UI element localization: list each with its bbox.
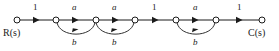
- arrow-head-feedback-3: [192, 28, 199, 32]
- gain-label-forward-1: 1: [33, 3, 38, 12]
- input-node-label: R(s): [3, 28, 20, 38]
- arrow-head-forward-2: [72, 17, 79, 23]
- feedback-arc-3: [177, 23, 215, 35]
- arrow-head-feedback-2: [111, 28, 118, 32]
- node-output[interactable]: [259, 17, 265, 23]
- node-2[interactable]: [53, 17, 59, 23]
- arrow-head-forward-1: [33, 17, 40, 23]
- arrow-head-feedback-1: [72, 28, 79, 32]
- arrow-head-forward-5: [192, 17, 199, 23]
- gain-label-forward-2: a: [72, 3, 77, 12]
- node-6[interactable]: [213, 17, 219, 23]
- feedback-arc-2: [96, 23, 134, 35]
- signal-flow-graph: 1 a a 1 a 1 b b b R(s) C(s): [0, 0, 279, 51]
- gain-label-forward-6: 1: [237, 3, 242, 12]
- feedback-arc-1: [57, 23, 95, 35]
- gain-label-forward-5: a: [193, 3, 198, 12]
- node-input[interactable]: [14, 17, 20, 23]
- arrow-head-forward-6: [236, 17, 243, 23]
- node-3[interactable]: [93, 17, 99, 23]
- node-5[interactable]: [173, 17, 179, 23]
- gain-label-forward-3: a: [112, 3, 117, 12]
- arrow-head-forward-3: [112, 17, 119, 23]
- feedback-branch-group: [57, 23, 215, 35]
- arrow-head-forward-4: [152, 17, 159, 23]
- gain-label-feedback-3: b: [193, 38, 198, 47]
- output-node-label: C(s): [248, 28, 265, 38]
- gain-label-forward-4: 1: [152, 3, 157, 12]
- node-4[interactable]: [132, 17, 138, 23]
- gain-label-feedback-2: b: [112, 38, 117, 47]
- gain-label-feedback-1: b: [72, 38, 77, 47]
